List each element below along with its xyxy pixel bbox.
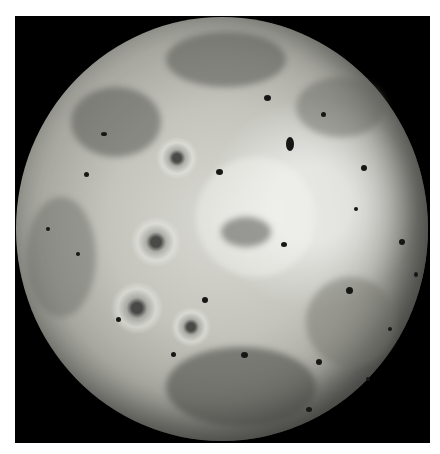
hotspot <box>84 172 89 177</box>
hotspot <box>399 239 405 245</box>
hotspot <box>346 287 353 294</box>
hotspot <box>281 242 287 247</box>
hotspot <box>264 95 271 101</box>
dark-region-west <box>26 197 96 317</box>
hotspot <box>316 359 322 365</box>
hotspot <box>202 297 208 303</box>
hotspot <box>321 112 326 117</box>
haloed-vent <box>131 217 181 267</box>
hotspot <box>388 327 392 331</box>
dark-region-north <box>166 32 286 87</box>
hotspot <box>414 272 418 277</box>
cropped-caption <box>0 446 440 454</box>
dark-region-northeast <box>296 77 386 137</box>
hotspot <box>46 227 50 231</box>
hotspot <box>171 352 176 357</box>
io-moon-disk <box>16 17 428 441</box>
hotspot <box>101 132 107 136</box>
hotspot <box>216 169 223 175</box>
haloed-vent <box>156 137 198 179</box>
hotspot <box>366 377 370 381</box>
haloed-vent <box>111 282 163 334</box>
image-frame <box>15 16 430 443</box>
hotspot <box>241 352 248 358</box>
hotspot <box>76 252 80 256</box>
dark-region-south <box>166 347 316 427</box>
haloed-vent <box>171 307 211 347</box>
hotspot <box>354 207 358 211</box>
dark-flow-center <box>221 217 271 247</box>
hotspot <box>116 317 121 322</box>
dark-region-northwest <box>71 87 161 157</box>
hotspot <box>361 165 367 171</box>
hotspot <box>306 407 312 412</box>
bright-region-center <box>196 157 316 277</box>
hotspot <box>286 137 294 151</box>
